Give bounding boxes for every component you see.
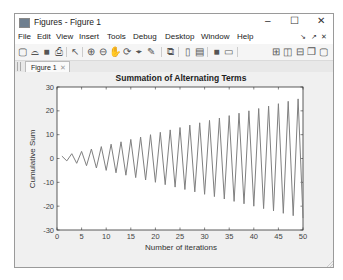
- y-tick-label: -30: [43, 226, 54, 235]
- menu-desktop[interactable]: Desktop: [165, 32, 194, 41]
- data-cursor-icon[interactable]: ⌖: [133, 46, 144, 57]
- toolbar-separator: [237, 47, 238, 57]
- resize-grip-icon[interactable]: [327, 261, 333, 267]
- x-tick-label: 35: [225, 232, 233, 241]
- maximize-button[interactable]: ☐: [290, 15, 299, 26]
- edit-plot-icon[interactable]: ↖: [69, 46, 80, 57]
- y-axis-label: Cumulative Sum: [28, 129, 37, 188]
- menu-window[interactable]: Window: [201, 32, 229, 41]
- menu-edit[interactable]: Edit: [37, 32, 51, 41]
- zoom-in-icon[interactable]: ⊕: [85, 46, 96, 57]
- float-icon[interactable]: ❐: [306, 46, 317, 57]
- x-tick-label: 10: [102, 232, 110, 241]
- toolbar-separator: [178, 47, 179, 57]
- maximize-doc-icon[interactable]: ▢: [318, 46, 329, 57]
- tab-label: Figure 1: [31, 64, 57, 71]
- chart-title: Summation of Alternating Terms: [116, 73, 247, 83]
- x-tick-label: 50: [299, 232, 307, 241]
- zoom-out-icon[interactable]: ⊖: [97, 46, 108, 57]
- figure-toolbar: ▢⌓■⎙↖⊕⊖✋⟳⌖✎⧉▯▤■▭⊞◫⊟❐▢: [15, 44, 333, 61]
- tile-columns-icon[interactable]: ◫: [282, 46, 293, 57]
- figure-canvas: Summation of Alternating Terms 051015202…: [15, 72, 333, 267]
- menu-tools[interactable]: Tools: [107, 32, 126, 41]
- insert-colorbar-icon[interactable]: ▯: [182, 46, 193, 57]
- y-tick-label: 20: [46, 106, 54, 115]
- show-plot-tools-icon[interactable]: ▭: [223, 46, 234, 57]
- x-tick-label: 45: [274, 232, 282, 241]
- undock-icon[interactable]: ↘: [300, 33, 306, 41]
- hide-plot-tools-icon[interactable]: ■: [211, 46, 222, 57]
- y-tick-label: -10: [43, 178, 54, 187]
- y-tick-label: 0: [50, 154, 54, 163]
- close-button[interactable]: ✕: [317, 15, 325, 26]
- open-file-icon[interactable]: ⌓: [29, 46, 40, 57]
- drag-grip-icon[interactable]: [17, 62, 21, 71]
- x-tick-label: 40: [250, 232, 258, 241]
- y-tick-label: 30: [46, 83, 54, 92]
- x-tick-label: 30: [200, 232, 208, 241]
- x-tick-label: 0: [55, 232, 59, 241]
- new-figure-icon[interactable]: ▢: [17, 46, 28, 57]
- menu-view[interactable]: View: [56, 32, 73, 41]
- title-bar[interactable]: Figures - Figure 1 – ☐ ✕: [15, 14, 333, 31]
- x-tick-label: 5: [80, 232, 84, 241]
- toolbar-separator: [207, 47, 208, 57]
- menu-file[interactable]: File: [18, 32, 31, 41]
- x-tick-label: 20: [151, 232, 159, 241]
- tile-rows-icon[interactable]: ⊟: [294, 46, 305, 57]
- brush-icon[interactable]: ✎: [145, 46, 156, 57]
- save-icon[interactable]: ■: [41, 46, 52, 57]
- figure-window: Figures - Figure 1 – ☐ ✕ ↘ ↗ ✕ FileEditV…: [14, 13, 334, 268]
- document-tab-bar: Figure 1 ✕: [15, 61, 333, 72]
- dock-icon[interactable]: ↗: [311, 33, 317, 41]
- rotate-3d-icon[interactable]: ⟳: [121, 46, 132, 57]
- x-axis-label: Number of iterations: [145, 243, 217, 252]
- link-plot-icon[interactable]: ⧉: [165, 46, 176, 57]
- toolbar-separator: [161, 47, 162, 57]
- print-icon[interactable]: ⎙: [53, 46, 64, 57]
- close-doc-icon[interactable]: ✕: [321, 33, 327, 41]
- pan-icon[interactable]: ✋: [109, 46, 120, 57]
- x-tick-label: 25: [176, 232, 184, 241]
- y-tick-label: 10: [46, 130, 54, 139]
- toolbar-separator: [82, 47, 83, 57]
- minimize-button[interactable]: –: [265, 15, 271, 26]
- menu-help[interactable]: Help: [237, 32, 253, 41]
- x-tick-label: 15: [127, 232, 135, 241]
- insert-legend-icon[interactable]: ▤: [194, 46, 205, 57]
- menu-debug[interactable]: Debug: [133, 32, 157, 41]
- tile-grid-icon[interactable]: ⊞: [270, 46, 281, 57]
- menu-bar: ↘ ↗ ✕ FileEditViewInsertToolsDebugDeskto…: [15, 31, 333, 44]
- line-chart[interactable]: Summation of Alternating Terms 051015202…: [15, 72, 333, 268]
- toolbar-separator: [66, 47, 67, 57]
- menu-insert[interactable]: Insert: [79, 32, 99, 41]
- matlab-figure-icon: [19, 18, 30, 28]
- y-tick-label: -20: [43, 202, 54, 211]
- window-title: Figures - Figure 1: [34, 17, 101, 27]
